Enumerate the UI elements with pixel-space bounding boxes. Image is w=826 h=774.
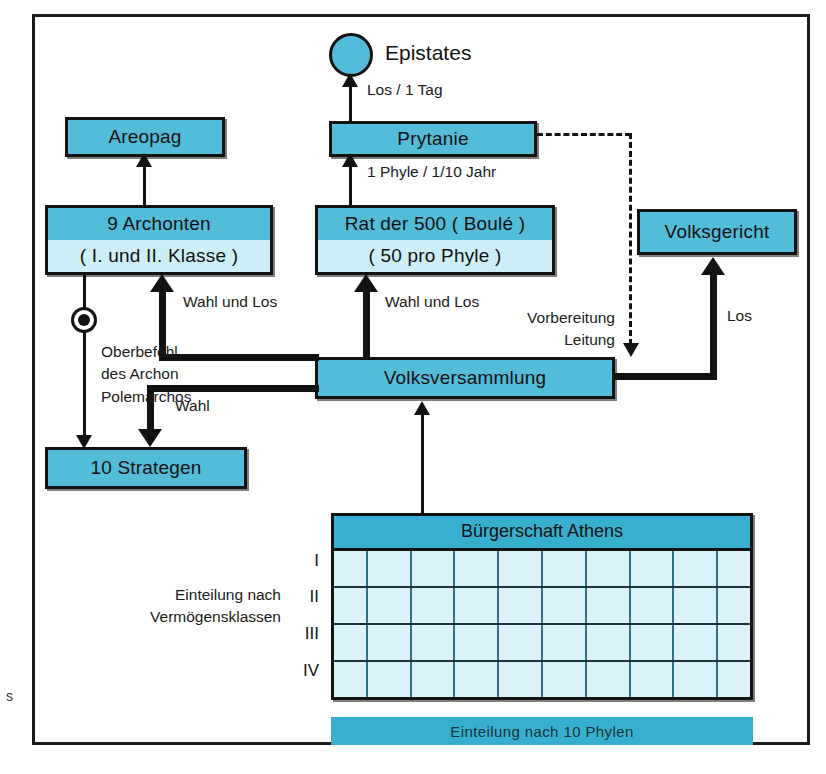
buergerschaft-grid-body (334, 551, 750, 697)
node-epistates-label: Epistates (385, 41, 471, 65)
table-row (334, 587, 750, 624)
node-rat-der-500[interactable]: Rat der 500 ( Boulé ) ( 50 pro Phyle ) (315, 205, 555, 275)
edge-label-phyle-jahr: 1 Phyle / 1/10 Jahr (367, 161, 496, 183)
grid-cell (454, 551, 498, 587)
grid-cell (334, 661, 367, 697)
caption-einteilung-vermoegensklassen: Einteilung nach Vermögensklassen (111, 584, 281, 629)
edge-prytanie-dashed-horizontal (537, 133, 631, 136)
node-areopag[interactable]: Areopag (65, 117, 225, 157)
grid-cell (673, 624, 717, 661)
edge-label-vorbereitung-leitung: Vorbereitung Leitung (465, 307, 615, 352)
oberbefehl-line-2: des Archon (101, 365, 179, 382)
grid-cell (411, 661, 455, 697)
grid-cell (498, 624, 542, 661)
edge-label-los-right: Los (727, 305, 752, 327)
einteilung-line-2: Vermögensklassen (150, 608, 281, 625)
node-volksgericht-label: Volksgericht (665, 221, 770, 243)
grid-cell (586, 624, 630, 661)
grid-cell (630, 661, 674, 697)
row-label-4: IV (293, 661, 319, 681)
node-prytanie[interactable]: Prytanie (329, 121, 537, 157)
grid-cell (367, 551, 411, 587)
edge-label-wahl-und-los-left: Wahl und Los (183, 291, 277, 313)
edge-vv-to-volksgericht-vertical (710, 275, 717, 377)
node-rat-der-500-subtitle: ( 50 pro Phyle ) (368, 245, 501, 267)
grid-cell (717, 587, 750, 624)
grid-cell (367, 624, 411, 661)
node-9-archonten-top: 9 Archonten (48, 208, 270, 240)
arrowhead-strategen-from-vv (138, 429, 162, 447)
grid-cell (586, 587, 630, 624)
node-prytanie-label: Prytanie (397, 128, 468, 150)
grid-cell (542, 624, 586, 661)
grid-cell (498, 551, 542, 587)
arrowhead-epistates (342, 73, 358, 87)
grid-cell (334, 551, 367, 587)
node-9-archonten[interactable]: 9 Archonten ( I. und II. Klasse ) (45, 205, 273, 275)
grid-cell (498, 587, 542, 624)
grid-cell (586, 551, 630, 587)
grid-cell (673, 551, 717, 587)
node-10-strategen-label: 10 Strategen (90, 457, 201, 479)
grid-cell (542, 661, 586, 697)
node-buergerschaft-athens[interactable]: Bürgerschaft Athens (331, 513, 753, 700)
grid-cell (542, 587, 586, 624)
row-label-1: I (293, 551, 319, 571)
node-9-archonten-title: 9 Archonten (107, 213, 211, 235)
edge-label-oberbefehl: Oberbefehl des Archon Polemarchos (101, 341, 191, 408)
node-10-strategen[interactable]: 10 Strategen (45, 447, 247, 489)
grid-cell (454, 661, 498, 697)
grid-cell (411, 551, 455, 587)
grid-cell (454, 624, 498, 661)
node-volksversammlung-label: Volksversammlung (384, 367, 547, 389)
oberbefehl-line-1: Oberbefehl (101, 343, 178, 360)
node-epistates-circle[interactable] (329, 33, 373, 77)
grid-cell (586, 661, 630, 697)
einteilung-line-1: Einteilung nach (175, 586, 281, 603)
arrowhead-volksgericht (701, 257, 725, 275)
grid-cell (367, 587, 411, 624)
arrowhead-volksversammlung-from-buergerschaft (414, 401, 430, 415)
grid-cell (411, 587, 455, 624)
diagram-frame: Epistates Los / 1 Tag Prytanie 1 Phyle /… (32, 14, 810, 745)
node-rat-der-500-top: Rat der 500 ( Boulé ) (318, 208, 552, 240)
marker-archon-polemarchos (71, 307, 97, 333)
node-areopag-label: Areopag (108, 126, 181, 148)
edge-label-los-1-tag: Los / 1 Tag (367, 79, 443, 101)
arrowhead-rat-from-vv (354, 274, 378, 292)
grid-cell (673, 661, 717, 697)
node-9-archonten-bottom: ( I. und II. Klasse ) (48, 240, 270, 272)
arrowhead-strategen-from-archonten (76, 435, 92, 449)
oberbefehl-line-3: Polemarchos (101, 388, 191, 405)
grid-cell (630, 587, 674, 624)
grid-cell (411, 624, 455, 661)
grid-cell (717, 661, 750, 697)
edge-vv-to-volksgericht-horizontal (613, 373, 717, 380)
grid-cell (454, 587, 498, 624)
band-einteilung-nach-10-phylen: Einteilung nach 10 Phylen (331, 717, 753, 745)
node-rat-der-500-bottom: ( 50 pro Phyle ) (318, 240, 552, 272)
buergerschaft-grid (334, 551, 750, 697)
arrowhead-prytanie (342, 153, 358, 167)
buergerschaft-header: Bürgerschaft Athens (334, 516, 750, 551)
grid-cell (334, 624, 367, 661)
arrowhead-areopag (136, 153, 152, 167)
grid-cell (367, 661, 411, 697)
edge-buergerschaft-to-vv (421, 413, 424, 515)
grid-cell (498, 661, 542, 697)
edge-vv-to-rat-vertical (363, 291, 370, 359)
row-label-3: III (293, 624, 319, 644)
diagram-canvas: s Epistates Los / 1 Tag Prytanie 1 Phyle… (0, 0, 826, 774)
arrowhead-volksversammlung-from-prytanie (623, 343, 639, 357)
node-9-archonten-subtitle: ( I. und II. Klasse ) (80, 245, 238, 267)
grid-cell (717, 624, 750, 661)
node-volksgericht[interactable]: Volksgericht (637, 209, 797, 255)
node-rat-der-500-title: Rat der 500 ( Boulé ) (345, 213, 526, 235)
table-row (334, 551, 750, 587)
grid-cell (630, 624, 674, 661)
arrowhead-archonten-from-vv (150, 274, 174, 292)
page-bleed-character: s (6, 688, 13, 704)
row-label-2: II (293, 587, 319, 607)
table-row (334, 624, 750, 661)
node-volksversammlung[interactable]: Volksversammlung (315, 357, 615, 399)
